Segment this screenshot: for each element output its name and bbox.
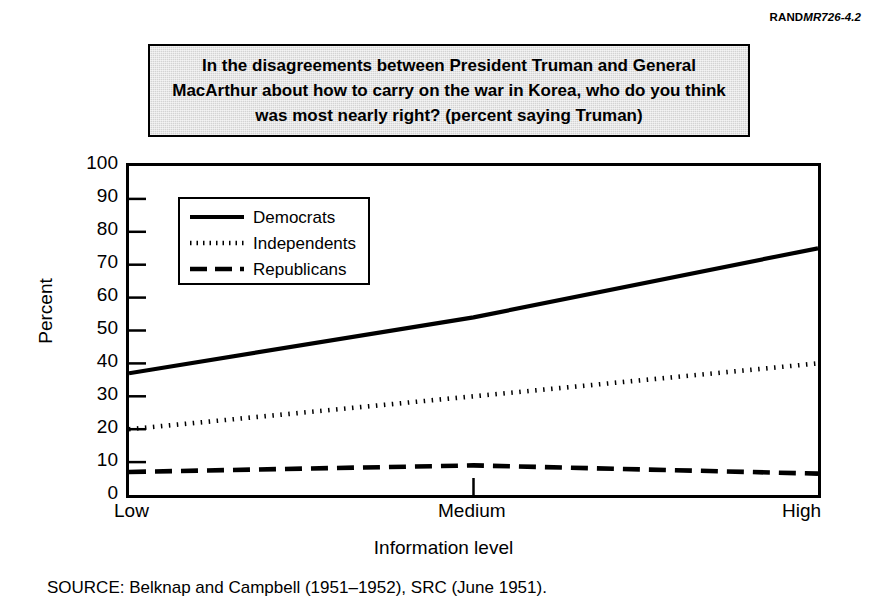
y-tick-50: 50	[72, 318, 118, 337]
y-tick-40: 40	[72, 351, 118, 370]
x-tick-medium: Medium	[438, 500, 506, 522]
y-tick-0: 0	[72, 483, 118, 502]
y-axis-ticks	[129, 199, 146, 462]
y-tick-70: 70	[72, 252, 118, 271]
legend-item-independents: Independents	[190, 233, 356, 253]
chart-title-banner: In the disagreements between President T…	[148, 44, 750, 137]
legend-swatch-dashed	[190, 262, 244, 276]
source-note: SOURCE: Belknap and Campbell (1951–1952)…	[47, 578, 547, 598]
x-tick-low: Low	[114, 500, 149, 522]
legend-swatch-dotted	[190, 236, 244, 250]
rand-code-prefix: RAND	[770, 11, 804, 23]
y-axis-title: Percent	[35, 251, 57, 371]
legend-swatch-solid	[190, 210, 244, 224]
x-tick-high: High	[782, 500, 821, 522]
legend-label-republicans: Republicans	[253, 261, 347, 278]
chart-title: In the disagreements between President T…	[150, 53, 748, 128]
y-tick-60: 60	[72, 285, 118, 304]
rand-code-number: MR726-4.2	[803, 11, 861, 23]
legend-label-independents: Independents	[253, 235, 356, 252]
y-tick-10: 10	[72, 450, 118, 469]
chart-legend: Democrats Independents Republicans	[178, 197, 370, 285]
legend-item-republicans: Republicans	[190, 259, 347, 279]
series-line-independents	[129, 363, 818, 429]
legend-item-democrats: Democrats	[190, 207, 335, 227]
x-axis-title: Information level	[0, 537, 887, 559]
y-tick-90: 90	[72, 186, 118, 205]
y-tick-20: 20	[72, 417, 118, 436]
y-tick-80: 80	[72, 219, 118, 238]
rand-figure-code: RANDMR726-4.2	[770, 11, 861, 23]
legend-label-democrats: Democrats	[253, 209, 335, 226]
y-tick-100: 100	[72, 153, 118, 172]
y-axis-tick-labels: 100 90 80 70 60 50 40 30 20 10 0	[68, 163, 118, 492]
y-tick-30: 30	[72, 384, 118, 403]
series-line-republicans	[129, 465, 818, 473]
